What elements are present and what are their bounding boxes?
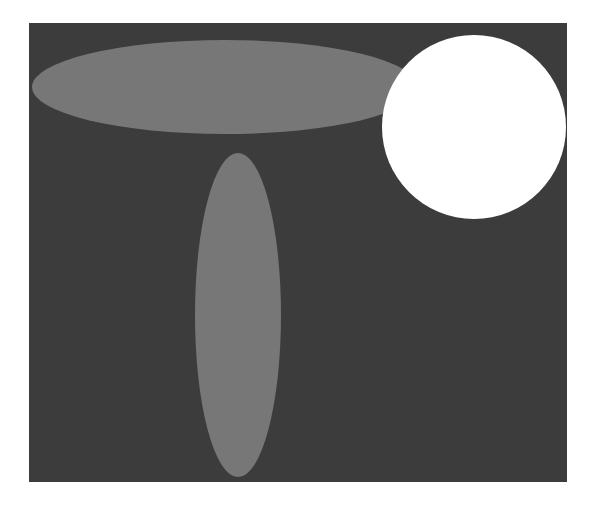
horizontal-ellipse <box>32 40 418 134</box>
vertical-ellipse <box>195 153 281 477</box>
white-circle <box>382 35 566 219</box>
